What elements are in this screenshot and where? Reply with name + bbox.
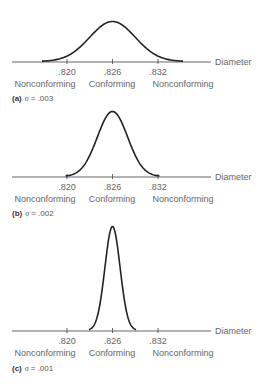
panel-caption: (b)σ= .002 [12, 209, 54, 218]
caption-letter: (c) [12, 364, 22, 373]
region-label-conforming: Conforming [89, 194, 136, 204]
region-label-nonconforming: Nonconforming [152, 194, 213, 204]
sigma-symbol: σ [25, 94, 30, 103]
tick-label: .820 [58, 336, 76, 346]
region-label-nonconforming: Nonconforming [14, 79, 75, 89]
panel-c: Diameter.820.826.832NonconformingConform… [12, 227, 252, 374]
region-label-nonconforming: Nonconforming [14, 194, 75, 204]
normal-curve [65, 112, 159, 176]
panel-b: Diameter.820.826.832NonconformingConform… [12, 112, 252, 219]
tick-label: .826 [104, 67, 122, 77]
tick-label: .820 [58, 182, 76, 192]
tick-label: .826 [104, 336, 122, 346]
sigma-symbol: σ [25, 209, 30, 218]
axis-label: Diameter [215, 172, 252, 182]
axis-label: Diameter [215, 326, 252, 336]
tick-label: .826 [104, 182, 122, 192]
sigma-symbol: σ [25, 364, 30, 373]
axis-label: Diameter [215, 57, 252, 67]
sigma-value: = .001 [31, 364, 54, 373]
panel-a: Diameter.820.826.832NonconformingConform… [12, 22, 252, 104]
sigma-value: = .003 [31, 94, 54, 103]
region-label-nonconforming: Nonconforming [152, 348, 213, 358]
region-label-nonconforming: Nonconforming [14, 348, 75, 358]
tick-label: .832 [149, 67, 167, 77]
region-label-conforming: Conforming [89, 348, 136, 358]
region-label-nonconforming: Nonconforming [152, 79, 213, 89]
panel-caption: (c)σ= .001 [12, 364, 54, 373]
caption-letter: (a) [12, 94, 22, 103]
normal-curve [42, 22, 183, 62]
panel-caption: (a)σ= .003 [12, 94, 54, 103]
sigma-value: = .002 [31, 209, 54, 218]
caption-letter: (b) [12, 209, 23, 218]
normal-distribution-figure: Diameter.820.826.832NonconformingConform… [0, 0, 264, 389]
tick-label: .832 [149, 182, 167, 192]
tick-label: .820 [58, 67, 76, 77]
tick-label: .832 [149, 336, 167, 346]
region-label-conforming: Conforming [89, 79, 136, 89]
normal-curve [89, 227, 136, 330]
